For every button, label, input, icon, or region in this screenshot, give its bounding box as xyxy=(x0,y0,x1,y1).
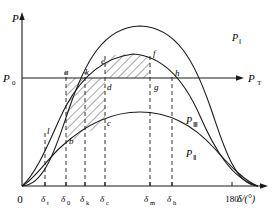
tick-label-delta-c: δ c xyxy=(100,194,109,206)
tick-delta-t-base: δ xyxy=(41,194,46,204)
curve-label-p3-sub: Ⅲ xyxy=(193,121,198,129)
tick-delta-t-sub: t xyxy=(47,199,49,206)
curve-label-p3-base: P xyxy=(185,115,192,126)
curve-label-p1-base: P xyxy=(231,32,238,43)
curve-label-p1: P Ⅰ xyxy=(231,32,241,46)
pt-label-text: P xyxy=(247,72,255,84)
curve-label-p2-sub: Ⅱ xyxy=(193,154,196,162)
point-label-b: b xyxy=(69,136,74,146)
pt-label-sub: T xyxy=(257,79,262,87)
tick-delta-m-sub: m xyxy=(150,199,155,206)
point-label-c: c xyxy=(107,118,111,128)
point-label-d: d xyxy=(107,82,112,92)
curve-label-p2-base: P xyxy=(185,148,192,159)
pt-axis-label: P T xyxy=(247,72,262,87)
x-tick-marks xyxy=(45,182,232,186)
power-angle-diagram: P P 0 P T 0 180 δ/(°) δ t δ 0 δ k δ c δ … xyxy=(0,0,280,210)
tick-label-delta-m: δ m xyxy=(144,194,155,206)
tick-delta-0-sub: 0 xyxy=(67,199,70,206)
figure-root: P P 0 P T 0 180 δ/(°) δ t δ 0 δ k δ c δ … xyxy=(0,0,280,210)
tick-delta-k-sub: k xyxy=(86,199,90,206)
tick-label-delta-0: δ 0 xyxy=(61,194,70,206)
curve-label-p2: P Ⅱ xyxy=(185,148,196,162)
tick-delta-c-base: δ xyxy=(100,194,105,204)
tick-label-delta-k: δ k xyxy=(80,194,90,206)
point-label-a: a xyxy=(64,67,69,77)
point-label-h: h xyxy=(175,68,180,78)
x-axis xyxy=(22,183,268,188)
tick-delta-m-base: δ xyxy=(144,194,149,204)
tick-delta-0-base: δ xyxy=(61,194,66,204)
tick-label-delta-t: δ t xyxy=(41,194,49,206)
x-axis-label: δ/(°) xyxy=(237,193,256,205)
point-label-e: e xyxy=(101,56,105,66)
tick-delta-k-base: δ xyxy=(80,194,85,204)
acceleration-area xyxy=(66,78,105,143)
point-label-f: f xyxy=(153,48,157,58)
point-label-g: g xyxy=(154,82,159,92)
point-label-l: l xyxy=(47,126,50,136)
origin-label: 0 xyxy=(17,193,23,205)
deceleration-area xyxy=(105,54,150,78)
curve-p1 xyxy=(22,26,258,186)
tick-delta-h-base: δ xyxy=(167,194,172,204)
p0-axis-label: P 0 xyxy=(2,72,16,87)
y-axis-label: P xyxy=(11,12,19,24)
tick-label-delta-h: δ h xyxy=(167,194,177,206)
y-axis xyxy=(19,12,24,186)
curve-label-p1-sub: Ⅰ xyxy=(239,38,241,46)
p0-label-sub: 0 xyxy=(12,79,16,87)
p0-label-text: P xyxy=(2,72,10,84)
curve-label-p3: P Ⅲ xyxy=(185,115,198,129)
tick-delta-h-sub: h xyxy=(173,199,177,206)
tick-delta-c-sub: c xyxy=(106,199,109,206)
x-tick-labels: δ t δ 0 δ k δ c δ m δ h xyxy=(41,194,177,206)
